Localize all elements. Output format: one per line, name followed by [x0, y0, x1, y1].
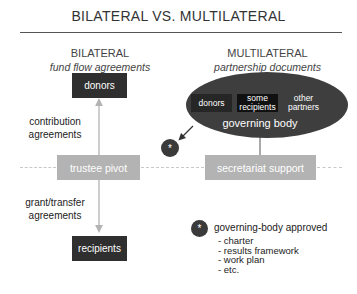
label-line: grant/transfer — [15, 196, 95, 209]
ellipse-member-other-partners: other partners — [283, 94, 324, 112]
member-label: other partners — [288, 94, 319, 112]
secretariat-support-box: secretariat support — [205, 155, 316, 180]
legend-list: - charter - results framework - work pla… — [218, 236, 299, 274]
trustee-pivot-box: trustee pivot — [57, 155, 140, 180]
governing-body-caption: governing body — [200, 117, 320, 129]
ellipse-member-some-recipients: some recipients — [237, 94, 278, 112]
label-line: agreements — [15, 209, 95, 222]
legend-item: - etc. — [218, 265, 299, 275]
label-line: contribution — [15, 115, 95, 128]
legend-asterisk-icon: * — [191, 220, 208, 237]
member-label: donors — [199, 99, 225, 108]
bilateral-recipients-box: recipients — [72, 236, 127, 261]
contribution-agreements-label: contribution agreements — [15, 115, 95, 141]
asterisk-marker-icon: * — [161, 139, 179, 157]
member-label-line: recipients — [239, 102, 275, 112]
ellipse-member-donors: donors — [191, 94, 232, 112]
member-label-line: partners — [288, 102, 319, 112]
bilateral-donors-box: donors — [72, 73, 127, 98]
grant-transfer-agreements-label: grant/transfer agreements — [15, 196, 95, 222]
legend-title: governing-body approved — [214, 222, 327, 233]
label-line: agreements — [15, 128, 95, 141]
member-label: some recipients — [239, 94, 275, 112]
